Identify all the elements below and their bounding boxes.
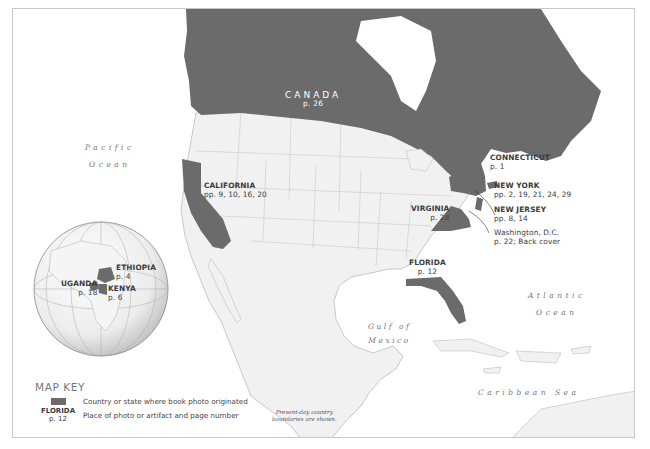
- caribbean-islands: [433, 339, 591, 373]
- label-ethiopia-pages: p. 4: [116, 273, 156, 282]
- label-kenya: KENYA p. 6: [108, 285, 136, 302]
- map-key-sample-pages: p. 12: [38, 415, 78, 423]
- label-washington-dc: Washington, D.C. p. 22; Back cover: [494, 229, 560, 246]
- label-florida-name: FLORIDA: [409, 258, 446, 267]
- gulf-of-mexico-label: Gulf of Mexico: [368, 320, 411, 348]
- label-canada: CANADA p. 26: [285, 91, 341, 108]
- label-virginia: VIRGINIA p. 28: [411, 205, 449, 222]
- label-virginia-name: VIRGINIA: [411, 204, 449, 213]
- label-new-jersey-pages: pp. 8, 14: [494, 215, 546, 224]
- atlantic-line-1: Atlantic: [528, 291, 586, 300]
- label-florida-pages: p. 12: [409, 268, 446, 277]
- gulf-line-1: Gulf of: [368, 322, 411, 331]
- label-connecticut-name: CONNECTICUT: [490, 153, 550, 162]
- map-key-sample-label: FLORIDA p. 12: [38, 407, 78, 423]
- label-california-name: CALIFORNIA: [204, 181, 255, 190]
- label-connecticut-pages: p. 1: [490, 163, 550, 172]
- label-connecticut: CONNECTICUT p. 1: [490, 154, 550, 171]
- label-washington-dc-name: Washington, D.C.: [494, 228, 559, 237]
- label-california: CALIFORNIA pp. 9, 10, 16, 20: [204, 182, 267, 199]
- boundaries-note: Present-day country boundaries are shown…: [272, 409, 337, 423]
- label-florida: FLORIDA p. 12: [409, 259, 446, 276]
- label-new-jersey-name: NEW JERSEY: [494, 205, 546, 214]
- pacific-line-2: Ocean: [89, 160, 131, 169]
- map-key-sample-description: Place of photo or artifact and page numb…: [83, 411, 239, 420]
- florida-shape: [406, 277, 466, 324]
- label-uganda-pages: p. 18: [61, 289, 97, 298]
- label-ethiopia: ETHIOPIA p. 4: [116, 264, 156, 281]
- map-key-swatch-label: Country or state where book photo origin…: [83, 397, 248, 406]
- atlantic-line-2: Ocean: [536, 308, 578, 317]
- label-new-york-name: NEW YORK: [494, 181, 540, 190]
- label-uganda: UGANDA p. 18: [61, 280, 97, 297]
- note-line-2: boundaries are shown.: [272, 416, 337, 422]
- gulf-line-2: Mexico: [368, 336, 410, 345]
- label-new-jersey: NEW JERSEY pp. 8, 14: [494, 206, 546, 223]
- label-canada-pages: p. 26: [285, 100, 341, 109]
- label-new-york: NEW YORK pp. 2, 19, 21, 24, 29: [494, 182, 571, 199]
- label-virginia-pages: p. 28: [411, 214, 449, 223]
- label-ethiopia-name: ETHIOPIA: [116, 263, 156, 272]
- label-california-pages: pp. 9, 10, 16, 20: [204, 191, 267, 200]
- note-line-1: Present-day country: [276, 409, 333, 415]
- label-washington-dc-pages: p. 22; Back cover: [494, 238, 560, 247]
- new-jersey-shape: [475, 197, 483, 211]
- map-key-sample-name: FLORIDA: [41, 407, 75, 415]
- pacific-ocean-label: Pacific Ocean: [85, 139, 135, 173]
- caribbean-sea-label: Caribbean Sea: [478, 384, 579, 401]
- north-america-map: [13, 9, 635, 438]
- label-new-york-pages: pp. 2, 19, 21, 24, 29: [494, 191, 571, 200]
- label-kenya-name: KENYA: [108, 284, 136, 293]
- map-key-swatch: [51, 398, 66, 405]
- globe-inset: [34, 222, 168, 356]
- pacific-line-1: Pacific: [85, 143, 135, 152]
- label-kenya-pages: p. 6: [108, 294, 136, 303]
- map-key-title: MAP KEY: [35, 381, 85, 393]
- atlantic-ocean-label: Atlantic Ocean: [528, 287, 586, 321]
- label-uganda-name: UGANDA: [61, 279, 97, 288]
